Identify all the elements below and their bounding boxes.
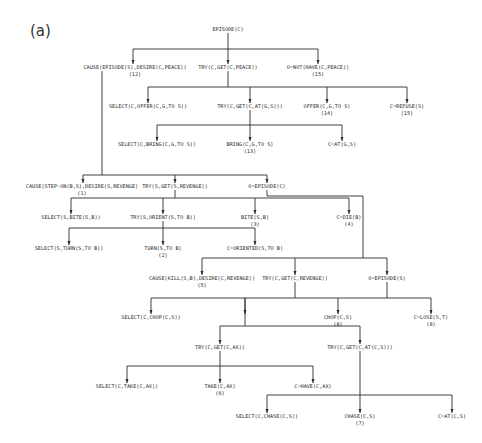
node-try-ax: TRY(C,GET(C,AX)) bbox=[195, 344, 245, 351]
node-o-not-have: O=NOT(HAVE(C,PEACE))(15) bbox=[287, 64, 349, 78]
node-text: CHASE(C,S) bbox=[344, 413, 375, 419]
node-text: C=AT(G,S) bbox=[328, 141, 356, 147]
node-text: CAUSE(EPISODE(S),DESIRE(C,PEACE)) bbox=[83, 64, 186, 70]
node-c-die: C=DIE(B)(4) bbox=[337, 214, 362, 228]
node-text: TRY(C,GET(C,REVENGE)) bbox=[262, 275, 328, 281]
node-turn: TURN(S,TO B)(2) bbox=[144, 245, 181, 259]
node-number: (8) bbox=[414, 321, 448, 328]
node-try-at-cs: TRY(C,GET(C,AT(C,S))) bbox=[327, 344, 393, 351]
node-text: O=EPISODE(C) bbox=[248, 183, 285, 189]
node-root: EPISODE(C) bbox=[212, 26, 243, 33]
node-number: (14) bbox=[304, 110, 351, 117]
node-select-chase: SELECT(C,CHASE(C,S)) bbox=[236, 413, 298, 420]
node-try-at: TRY(C,GET(C,AT(G,S))) bbox=[217, 103, 283, 110]
node-text: SELECT(C,OFFER(C,G,TO S)) bbox=[109, 103, 187, 109]
node-cause-episode: CAUSE(EPISODE(S),DESIRE(C,PEACE))(12) bbox=[83, 64, 186, 78]
node-text: SELECT(C,BRING(C,G,TO S)) bbox=[118, 141, 196, 147]
node-select-bring: SELECT(C,BRING(C,G,TO S)) bbox=[118, 141, 196, 148]
node-text: C=AT(C,S) bbox=[438, 413, 466, 419]
node-number: (15) bbox=[287, 71, 349, 78]
node-select-bite: SELECT(S,BITE(S,B)) bbox=[41, 214, 100, 221]
node-cause-stepon: CAUSE(STEP-ON(B,S),DESIRE(S,REVENGE)(1) bbox=[26, 183, 138, 197]
node-text: TAKE(C,AX) bbox=[204, 383, 235, 389]
node-c-oriented: C=ORIENTED(S,TO B) bbox=[227, 245, 283, 252]
node-chase: CHASE(C,S)(7) bbox=[344, 413, 375, 427]
node-number: (7) bbox=[344, 420, 375, 427]
node-c-have: C=HAVE(C,AX) bbox=[294, 383, 331, 390]
node-number: (2) bbox=[144, 252, 181, 259]
node-c-at-gs: C=AT(G,S) bbox=[328, 141, 356, 148]
node-text: C=HAVE(C,AX) bbox=[294, 383, 331, 389]
node-chop: CHOP(C,S)(8) bbox=[324, 314, 352, 328]
node-text: TRY(C,GET(C,AX)) bbox=[195, 344, 245, 350]
node-bring: BRING(C,G,TO S)(13) bbox=[227, 141, 274, 155]
node-text: OFFER(C,G,TO S) bbox=[304, 103, 351, 109]
node-text: BITE(S,B) bbox=[241, 214, 269, 220]
node-number: (12) bbox=[83, 71, 186, 78]
node-text: TURN(S,TO B) bbox=[144, 245, 181, 251]
node-number: (3) bbox=[241, 221, 269, 228]
node-number: (4) bbox=[337, 221, 362, 228]
node-text: BRING(C,G,TO S) bbox=[227, 141, 274, 147]
node-o-episode-s: O=EPISODE(S) bbox=[368, 275, 405, 282]
node-text: O=NOT(HAVE(C,PEACE)) bbox=[287, 64, 349, 70]
node-text: SELECT(C,CHASE(C,S)) bbox=[236, 413, 298, 419]
node-o-episode-c: O=EPISODE(C) bbox=[248, 183, 285, 190]
node-select-chop: SELECT(C,CHOP(C,S)) bbox=[121, 314, 180, 321]
node-text: CAUSE(KILL(S,B),DESIRE(C,REVENGE)) bbox=[149, 275, 255, 281]
node-number: (15) bbox=[390, 110, 424, 117]
node-text: TRY(S,ORIENT(S,TO B)) bbox=[130, 214, 196, 220]
node-text: SELECT(S,BITE(S,B)) bbox=[41, 214, 100, 220]
node-c-lose: C=LOSE(S,T)(8) bbox=[414, 314, 448, 328]
node-text: TRY(C,GET(C,AT(C,S))) bbox=[327, 344, 393, 350]
node-text: O=EPISODE(S) bbox=[368, 275, 405, 281]
node-text: CHOP(C,S) bbox=[324, 314, 352, 320]
node-bite: BITE(S,B)(3) bbox=[241, 214, 269, 228]
node-text: SELECT(C,CHOP(C,S)) bbox=[121, 314, 180, 320]
node-try-peace: TRY(C,GET(C,PEACE)) bbox=[198, 64, 257, 71]
node-offer: OFFER(C,G,TO S)(14) bbox=[304, 103, 351, 117]
node-try-c-revenge: TRY(C,GET(C,REVENGE)) bbox=[262, 275, 328, 282]
node-text: CAUSE(STEP-ON(B,S),DESIRE(S,REVENGE) bbox=[26, 183, 138, 189]
node-select-offer: SELECT(C,OFFER(C,G,TO S)) bbox=[109, 103, 187, 110]
node-number: (6) bbox=[204, 390, 235, 397]
node-text: C=ORIENTED(S,TO B) bbox=[227, 245, 283, 251]
node-try-s-revenge: TRY(S,GET(S,REVENGE)) bbox=[142, 183, 208, 190]
node-number: (1) bbox=[26, 190, 138, 197]
node-take: TAKE(C,AX)(6) bbox=[204, 383, 235, 397]
node-text: TRY(C,GET(C,PEACE)) bbox=[198, 64, 257, 70]
node-text: TRY(S,GET(S,REVENGE)) bbox=[142, 183, 208, 189]
node-c-refuse: C=REFUSE(S)(15) bbox=[390, 103, 424, 117]
node-text: C=LOSE(S,T) bbox=[414, 314, 448, 320]
node-text: C=REFUSE(S) bbox=[390, 103, 424, 109]
node-text: EPISODE(C) bbox=[212, 26, 243, 32]
node-try-orient: TRY(S,ORIENT(S,TO B)) bbox=[130, 214, 196, 221]
node-text: C=DIE(B) bbox=[337, 214, 362, 220]
node-text: SELECT(C,TAKE(C,AX)) bbox=[96, 383, 158, 389]
node-c-at-cs: C=AT(C,S) bbox=[438, 413, 466, 420]
node-number: (5) bbox=[149, 282, 255, 289]
node-number: (8) bbox=[324, 321, 352, 328]
node-text: TRY(C,GET(C,AT(G,S))) bbox=[217, 103, 283, 109]
node-text: SELECT(S,TURN(S,TO B)) bbox=[35, 245, 104, 251]
node-cause-kill: CAUSE(KILL(S,B),DESIRE(C,REVENGE))(5) bbox=[149, 275, 255, 289]
node-select-take: SELECT(C,TAKE(C,AX)) bbox=[96, 383, 158, 390]
node-select-turn: SELECT(S,TURN(S,TO B)) bbox=[35, 245, 104, 252]
node-number: (13) bbox=[227, 148, 274, 155]
